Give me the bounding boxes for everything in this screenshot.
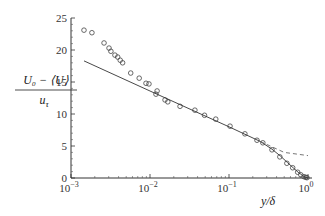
plot-series [82, 28, 310, 180]
chart: U₀ − ⟨U⟩ uτ 051015202510−310−210−1100 y/… [0, 0, 325, 216]
x-tick-label: 10−2 [138, 180, 158, 194]
data-point [82, 28, 87, 33]
x-axis-title: y/δ [260, 194, 276, 208]
solid-fit-line [84, 61, 308, 178]
data-point [137, 76, 142, 81]
x-tick-label: 100 [299, 180, 314, 194]
dashed-fit-line [260, 142, 308, 156]
y-tick-label: 5 [62, 140, 68, 152]
y-axis-title-subscript: τ [45, 99, 49, 109]
x-tick-label: 10−1 [217, 180, 237, 194]
data-point [147, 82, 152, 87]
y-tick-label: 10 [56, 108, 68, 120]
plot-axes [71, 18, 312, 178]
data-point [128, 71, 133, 76]
data-point [102, 41, 107, 46]
y-axis-title: U₀ − ⟨U⟩ uτ [15, 73, 77, 109]
data-point [90, 30, 95, 35]
axis-ticks: 051015202510−310−210−1100 [56, 12, 314, 194]
svg-text:uτ: uτ [39, 93, 49, 109]
y-tick-label: 25 [56, 12, 68, 24]
y-tick-label: 20 [56, 44, 68, 56]
y-tick-label: 15 [56, 76, 68, 88]
x-tick-label: 10−3 [59, 180, 79, 194]
